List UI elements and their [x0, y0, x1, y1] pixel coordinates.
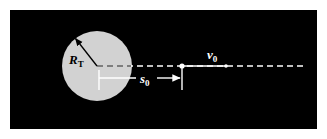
diagram-canvas: RT s0 v0 [0, 0, 327, 139]
distance-label-subscript: 0 [145, 78, 150, 88]
radius-label-symbol: R [68, 52, 78, 67]
figure-panel [10, 10, 317, 129]
point-mass [179, 63, 184, 68]
velocity-label-subscript: 0 [213, 54, 218, 64]
velocity-marker [224, 64, 228, 68]
radius-label-subscript: T [78, 59, 84, 69]
physics-figure: RT s0 v0 [0, 0, 327, 139]
